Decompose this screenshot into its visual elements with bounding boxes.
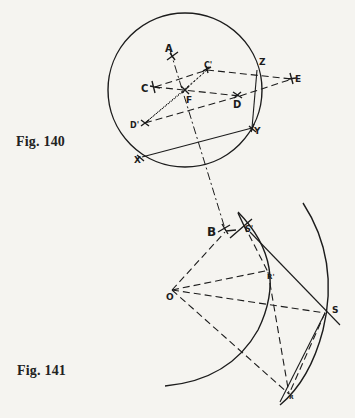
label-y: Y xyxy=(253,126,261,136)
label-f: F xyxy=(186,95,192,105)
line-cprime-dprime xyxy=(145,70,207,123)
point-labels-141: B S' R' O S R xyxy=(166,225,338,400)
label-e: E xyxy=(295,74,301,84)
label-r-prime: R' xyxy=(267,273,275,281)
label-z: Z xyxy=(259,57,266,67)
label-o: O xyxy=(166,292,174,302)
label-s-prime: S' xyxy=(245,225,253,234)
label-s: S xyxy=(332,305,338,315)
line-s-r xyxy=(289,313,325,394)
inner-arc xyxy=(165,212,270,386)
point-labels-140: A C C' F D D' E Z Y X xyxy=(130,43,301,165)
line-o-r xyxy=(172,290,289,394)
line-o-s xyxy=(172,290,325,313)
line-x-y xyxy=(142,128,252,157)
figure-140: A C C' F D D' E Z Y X xyxy=(108,13,301,232)
cross-marks-140 xyxy=(137,52,296,161)
line-d-e xyxy=(240,79,292,96)
label-d-prime: D' xyxy=(130,121,139,130)
line-dprime-d xyxy=(145,96,240,123)
line-r-tick xyxy=(280,313,325,402)
figure-140-caption: Fig. 140 xyxy=(16,134,65,150)
page: A C C' F D D' E Z Y X xyxy=(0,0,355,418)
label-a: A xyxy=(165,43,173,54)
outer-arc xyxy=(280,203,328,405)
label-d: D xyxy=(233,99,241,110)
geometry-diagram: A C C' F D D' E Z Y X xyxy=(0,0,355,418)
label-c: C xyxy=(141,83,148,94)
label-x: X xyxy=(134,155,141,165)
line-cprime-e xyxy=(207,70,292,79)
figure-141-caption: Fig. 141 xyxy=(17,363,66,379)
figure-141: B S' R' O S R xyxy=(165,203,340,405)
label-b: B xyxy=(207,225,216,239)
label-c-prime: C' xyxy=(204,61,212,70)
line-c-d xyxy=(155,87,240,96)
cross-b xyxy=(218,224,236,234)
axis-line-a-b xyxy=(170,50,226,232)
line-sprime-s xyxy=(250,232,340,325)
line-rprime-r xyxy=(268,272,289,394)
label-r: R xyxy=(289,393,294,400)
line-o-rprime xyxy=(172,270,270,290)
